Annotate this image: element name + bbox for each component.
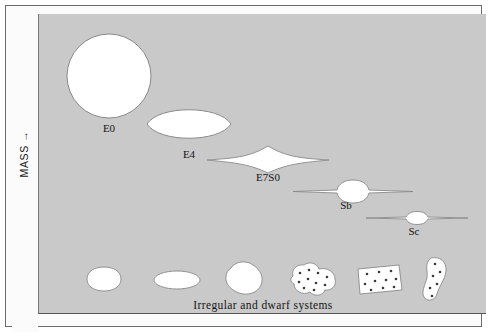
irregular-shape-quadrilateral — [353, 262, 405, 298]
dwarf-shape-ellipse — [151, 268, 203, 292]
plot-area: E0 E4 E7S0 Sb Sc — [38, 14, 486, 314]
galaxy-label-sc: Sc — [392, 225, 436, 237]
galaxy-classification-figure: MASS → E0 E4 E7S0 Sb — [0, 0, 489, 334]
mass-axis-strip: MASS → — [12, 12, 38, 332]
irregular-dwarf-caption: Irregular and dwarf systems — [39, 299, 486, 311]
galaxy-label-e7s0: E7S0 — [241, 171, 295, 183]
dwarf-shape-blob — [221, 258, 267, 298]
irregular-shape-crescent — [415, 254, 455, 304]
figure-outer-frame: MASS → E0 E4 E7S0 Sb — [5, 5, 482, 327]
dwarf-shape-oval — [83, 264, 125, 294]
galaxy-label-sb: Sb — [324, 199, 368, 211]
irregular-shape-speckled-blob — [285, 260, 341, 300]
galaxy-label-e0: E0 — [81, 122, 137, 134]
mass-axis-label: MASS → — [18, 98, 30, 210]
